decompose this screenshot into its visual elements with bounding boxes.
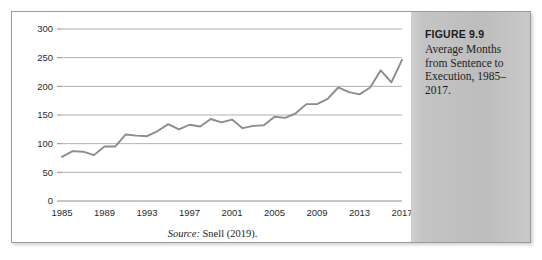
caption-inner: FIGURE 9.9 Average Months from Sentence … [425, 28, 522, 97]
caption-panel: FIGURE 9.9 Average Months from Sentence … [411, 12, 530, 242]
figure-screenshot: 050100150200250300 198519891993199720012… [0, 0, 542, 260]
figure-number-label: FIGURE 9.9 [425, 28, 522, 40]
y-tick-label: 100 [37, 138, 53, 149]
line-chart-plot: 050100150200250300 198519891993199720012… [12, 12, 413, 243]
figure-caption-text: Average Months from Sentence to Executio… [425, 43, 522, 97]
y-tick-label: 300 [37, 23, 53, 34]
y-tick-label: 150 [37, 109, 53, 120]
data-line-series [62, 60, 402, 157]
gridlines-group [57, 29, 402, 201]
y-tick-label: 50 [42, 167, 53, 178]
x-tick-label: 2013 [349, 207, 370, 218]
x-tick-label: 1997 [179, 207, 200, 218]
x-tick-label: 2005 [264, 207, 285, 218]
source-label: Source: [168, 228, 200, 239]
x-tick-label: 2001 [221, 207, 242, 218]
x-tick-label: 2009 [306, 207, 327, 218]
x-axis-tick-labels: 198519891993199720012005200920132017 [51, 207, 412, 218]
y-tick-label: 250 [37, 52, 53, 63]
x-tick-label: 1985 [51, 207, 72, 218]
figure-box: 050100150200250300 198519891993199720012… [11, 11, 531, 243]
source-text: Snell (2019). [200, 228, 257, 239]
chart-area: 050100150200250300 198519891993199720012… [12, 12, 413, 242]
y-tick-label: 200 [37, 81, 53, 92]
y-tick-label: 0 [48, 195, 53, 206]
source-note: Source: Snell (2019). [12, 228, 413, 239]
y-axis-tick-labels: 050100150200250300 [37, 23, 53, 206]
x-tick-label: 1993 [136, 207, 157, 218]
x-tick-label: 1989 [94, 207, 115, 218]
x-tick-label: 2017 [391, 207, 412, 218]
